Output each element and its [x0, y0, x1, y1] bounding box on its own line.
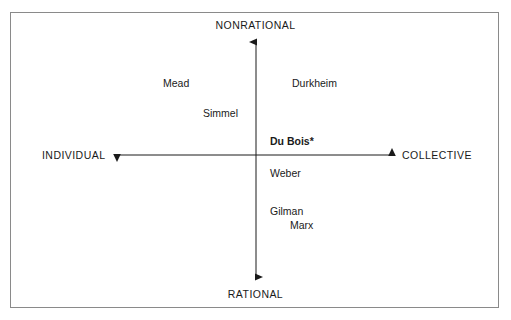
axis-label-individual: INDIVIDUAL [42, 149, 105, 161]
data-label-durkheim: Durkheim [292, 77, 337, 89]
plot-area: NONRATIONAL RATIONAL INDIVIDUAL COLLECTI… [0, 0, 511, 320]
data-label-gilman: Gilman [270, 205, 303, 217]
data-label-simmel: Simmel [203, 107, 238, 119]
axis-label-rational: RATIONAL [0, 288, 511, 300]
data-label-marx: Marx [290, 219, 313, 231]
axis-label-nonrational: NONRATIONAL [0, 19, 511, 31]
axis-label-collective: COLLECTIVE [402, 149, 472, 161]
data-label-weber: Weber [270, 167, 301, 179]
data-label-mead: Mead [163, 77, 189, 89]
data-label-du-bois: Du Bois* [270, 135, 314, 147]
quadrant-diagram-figure: NONRATIONAL RATIONAL INDIVIDUAL COLLECTI… [0, 0, 511, 320]
